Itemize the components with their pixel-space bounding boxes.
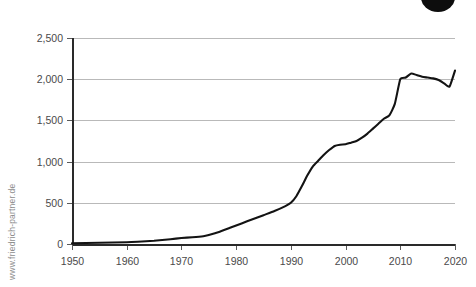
x-tick-label: 1960 <box>116 255 140 267</box>
x-tick-label: 2000 <box>335 255 359 267</box>
x-tick-label: 1970 <box>170 255 194 267</box>
x-tick-label: 1990 <box>280 255 304 267</box>
y-tick-label: 2,000 <box>37 73 63 85</box>
gridlines <box>72 39 455 204</box>
y-tick-label: 0 <box>57 238 63 250</box>
y-tick-label: 1,000 <box>37 156 63 168</box>
x-tick-label: 2010 <box>389 255 413 267</box>
y-axis-ticks <box>67 39 72 245</box>
y-tick-label: 500 <box>45 197 63 209</box>
data-series <box>72 71 455 244</box>
y-tick-label: 1,500 <box>37 114 63 126</box>
line-chart: 05001,0001,5002,0002,500 195019601970198… <box>0 0 476 287</box>
series-line <box>72 71 455 244</box>
x-axis-labels: 19501960197019801990200020102020 <box>61 255 468 267</box>
y-axis-labels: 05001,0001,5002,0002,500 <box>37 32 63 250</box>
x-tick-label: 1950 <box>61 255 85 267</box>
x-tick-label: 2020 <box>444 255 468 267</box>
axis-lines <box>73 38 456 245</box>
chart-page: www.friedrich-partner.de 05001,0001,5002… <box>0 0 476 287</box>
y-tick-label: 2,500 <box>37 32 63 44</box>
x-tick-label: 1980 <box>225 255 249 267</box>
